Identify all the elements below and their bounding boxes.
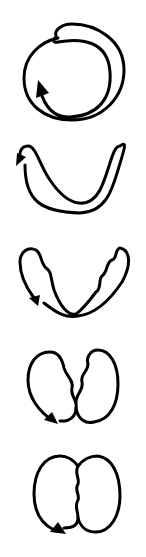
stage-4-wavy-lobes bbox=[28, 350, 118, 424]
arrow-head-icon bbox=[29, 295, 40, 306]
arrow-head-icon bbox=[36, 80, 49, 98]
diagram-canvas bbox=[0, 0, 146, 557]
stage-5-joined-lobes bbox=[34, 456, 120, 534]
stage-2-crossed-v bbox=[16, 144, 124, 213]
stage-3-wavy-crossed-v bbox=[20, 248, 129, 316]
stage-1-looped-circle bbox=[24, 24, 124, 120]
